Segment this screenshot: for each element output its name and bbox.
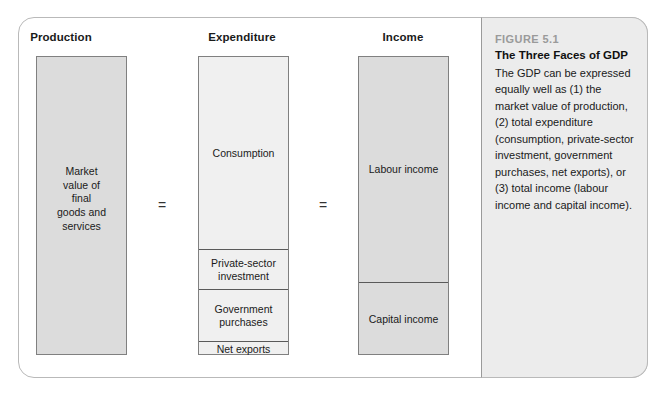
private-investment-label: Private-sectorinvestment bbox=[211, 257, 276, 283]
income-bar: Labour income Capital income bbox=[358, 56, 449, 355]
equals-sign-1: = bbox=[152, 197, 172, 213]
equals-sign-2: = bbox=[313, 197, 333, 213]
expenditure-segment-private-investment: Private-sectorinvestment bbox=[199, 249, 288, 289]
figure-title: The Three Faces of GDP bbox=[495, 48, 636, 64]
income-segment-capital: Capital income bbox=[359, 282, 448, 356]
government-purchases-label: Governmentpurchases bbox=[215, 303, 273, 329]
expenditure-segment-net-exports: Net exports bbox=[199, 341, 288, 356]
figure-number-label: FIGURE 5.1 bbox=[495, 33, 636, 45]
figure-caption-body: The GDP can be expressed equally well as… bbox=[495, 65, 636, 214]
column-title-production: Production bbox=[0, 31, 131, 43]
production-line-5: services bbox=[37, 220, 126, 234]
expenditure-bar: Consumption Private-sectorinvestment Gov… bbox=[198, 56, 289, 355]
column-title-income: Income bbox=[333, 31, 473, 43]
production-line-4: goods and bbox=[37, 206, 126, 220]
income-segment-labour: Labour income bbox=[359, 57, 448, 282]
production-line-3: final bbox=[37, 192, 126, 206]
column-title-expenditure: Expenditure bbox=[172, 31, 312, 43]
expenditure-segment-government-purchases: Governmentpurchases bbox=[199, 289, 288, 341]
expenditure-segment-consumption: Consumption bbox=[199, 57, 288, 249]
production-line-1: Market bbox=[37, 165, 126, 179]
production-bar: Market value of final goods and services bbox=[36, 56, 127, 355]
production-line-2: value of bbox=[37, 179, 126, 193]
production-segment-label: Market value of final goods and services bbox=[37, 165, 126, 233]
figure-caption-panel: FIGURE 5.1 The Three Faces of GDP The GD… bbox=[481, 17, 648, 378]
gdp-diagram: Production Market value of final goods a… bbox=[0, 0, 480, 396]
